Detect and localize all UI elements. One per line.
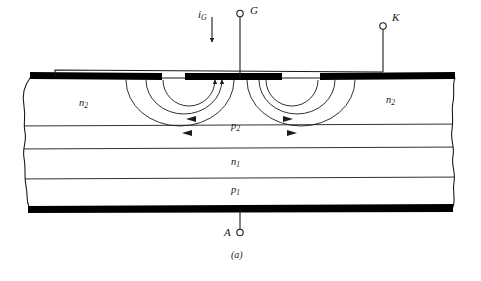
gate-terminal-label: G [250,5,258,16]
layer-label-n2-right-sub: 2 [391,98,395,107]
layer-label-p2: p2 [231,121,240,132]
layer-label-n2-left-sub: 2 [84,101,88,110]
gate-current-label-sub: G [201,13,207,22]
layer-label-n2-left: n2 [79,98,88,109]
layer-label-n1-sub: 1 [236,160,240,169]
layer-label-p2-sub: 2 [236,124,240,133]
figure-drawing [0,0,481,281]
figure-caption: (a) [231,250,243,260]
top-metallization [30,72,455,80]
cathode-contact-right [320,72,455,80]
layer-label-n2-right: n2 [386,95,395,106]
cathode-contact-left [30,72,162,80]
cathode-terminal-node [380,23,386,29]
gate-contact [185,73,282,80]
cathode-terminal-label: K [392,12,399,23]
gate-terminal-node [237,10,243,16]
thyristor-cross-section-figure: G iG K A n2 n2 p2 n1 p1 (a) [0,0,481,281]
anode-terminal-label: A [224,227,231,238]
layer-label-n1: n1 [231,157,240,168]
layer-label-p1-sub: 1 [236,188,240,197]
anode-terminal-node [237,229,243,235]
cathode-wiring [55,29,383,76]
gate-current-label: iG [198,9,207,20]
layer-label-p1: p1 [231,185,240,196]
